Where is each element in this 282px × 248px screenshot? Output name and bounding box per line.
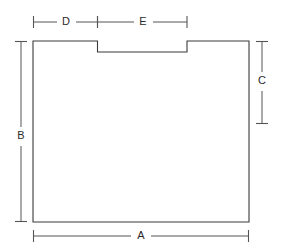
dimension-e-label: E: [139, 15, 147, 27]
dimension-d-label: D: [62, 15, 70, 27]
dimension-e: E: [98, 15, 188, 28]
panel-outline-path: [33, 41, 249, 222]
dimension-drawing-canvas: D E B C: [0, 0, 282, 248]
dimension-d: D: [34, 15, 98, 28]
dimension-a: A: [34, 229, 249, 242]
dimension-c-label: C: [258, 74, 266, 86]
panel-dimension-diagram: D E B C: [0, 0, 282, 248]
dimension-a-label: A: [137, 229, 145, 241]
dimension-b: B: [15, 42, 27, 222]
dimension-c: C: [256, 42, 268, 124]
dimension-b-label: B: [17, 129, 25, 141]
